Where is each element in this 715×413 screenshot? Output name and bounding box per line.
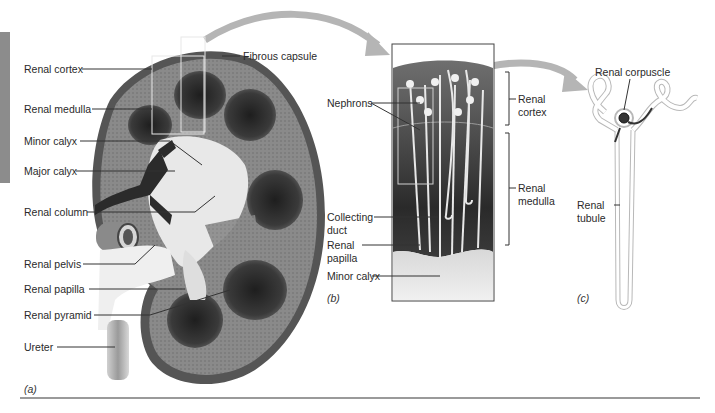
label-renal-pelvis: Renal pelvis [24,258,81,270]
panel-caption-b: (b) [327,292,340,304]
label-renal-pyramid: Renal pyramid [24,309,92,321]
label-renal-tubule: Renal tubule [577,199,606,224]
kidney-cross-section [92,37,325,384]
bottom-divider [20,397,700,399]
label-renal-papilla-b: Renal papilla [327,239,357,264]
label-renal-corpuscle: Renal corpuscle [595,66,670,78]
kidney-anatomy-illustration [0,0,715,413]
nephron-section-enlarged [392,44,509,301]
label-renal-medulla-b: Renal medulla [518,182,555,207]
single-nephron [591,76,697,308]
label-minor-calyx-b: Minor calyx [327,270,380,282]
label-collecting-duct: Collecting duct [327,211,373,236]
label-major-calyx: Major calyx [24,165,77,177]
label-renal-cortex: Renal cortex [24,63,83,75]
label-minor-calyx: Minor calyx [24,135,77,147]
label-renal-cortex-b: Renal cortex [518,93,547,118]
panel-caption-c: (c) [577,292,589,304]
label-renal-medulla: Renal medulla [24,103,91,115]
label-nephrons: Nephrons [327,97,373,109]
label-renal-papilla: Renal papilla [24,283,85,295]
label-ureter: Ureter [24,341,53,353]
panel-caption-a: (a) [24,383,37,395]
label-renal-column: Renal column [24,206,88,218]
label-fibrous-capsule: Fibrous capsule [243,50,317,62]
